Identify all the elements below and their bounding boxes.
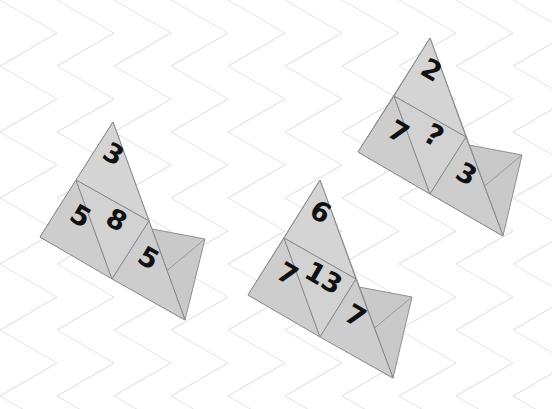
puzzle-shapes-layer: 3 5 8 5 6 7 13 7 [0, 0, 552, 409]
triangle-net-left[interactable]: 3 5 8 5 [40, 122, 205, 320]
triangle-net-middle[interactable]: 6 7 13 7 [248, 180, 412, 378]
puzzle-canvas: 3 5 8 5 6 7 13 7 [0, 0, 552, 409]
triangle-net-right[interactable]: 2 7 ? 3 [358, 38, 522, 236]
